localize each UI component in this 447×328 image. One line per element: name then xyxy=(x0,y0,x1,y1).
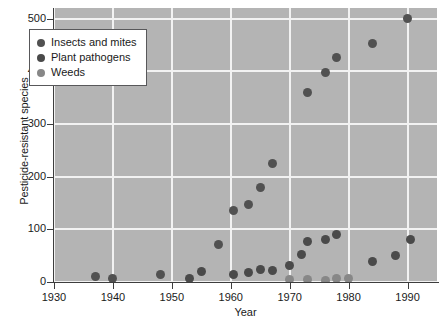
x-tick-mark-1960 xyxy=(231,283,232,289)
x-tick-mark-1990 xyxy=(408,283,409,289)
legend-label: Insects and mites xyxy=(51,36,137,49)
x-tick-label-1970: 1970 xyxy=(268,291,312,303)
x-tick-label-1940: 1940 xyxy=(91,291,135,303)
y-tick-mark-500 xyxy=(47,19,54,20)
legend-marker-icon xyxy=(37,39,45,47)
y-tick-label-200: 200 xyxy=(6,171,46,182)
x-tick-label-1950: 1950 xyxy=(150,291,194,303)
data-point xyxy=(256,183,265,192)
x-tick-mark-1980 xyxy=(349,283,350,289)
x-axis-title: Year xyxy=(54,306,437,318)
x-tick-label-1990: 1990 xyxy=(386,291,430,303)
x-tick-mark-1940 xyxy=(113,283,114,289)
y-tick-label-100: 100 xyxy=(6,223,46,234)
legend-item: Plant pathogens xyxy=(37,50,137,65)
gridline-x-1950 xyxy=(171,8,173,282)
x-tick-mark-1930 xyxy=(54,283,55,289)
data-point xyxy=(229,270,238,279)
data-point xyxy=(185,274,194,282)
data-point xyxy=(108,274,117,282)
x-tick-mark-1970 xyxy=(290,283,291,289)
y-tick-label-500: 500 xyxy=(6,13,46,24)
y-tick-mark-200 xyxy=(47,177,54,178)
x-tick-label-1960: 1960 xyxy=(209,291,253,303)
gridline-x-1970 xyxy=(289,8,291,282)
legend-item: Weeds xyxy=(37,65,137,80)
data-point xyxy=(197,267,206,276)
data-point xyxy=(403,14,412,23)
y-tick-mark-0 xyxy=(47,282,54,283)
x-tick-mark-1950 xyxy=(172,283,173,289)
chart-legend: Insects and mitesPlant pathogensWeeds xyxy=(29,29,147,86)
data-point xyxy=(391,251,400,260)
y-tick-mark-100 xyxy=(47,229,54,230)
data-point xyxy=(268,159,277,168)
legend-item: Insects and mites xyxy=(37,35,137,50)
x-tick-label-1980: 1980 xyxy=(327,291,371,303)
data-point xyxy=(406,235,415,244)
legend-label: Plant pathogens xyxy=(51,51,131,64)
data-point xyxy=(297,250,306,259)
data-point xyxy=(285,261,294,270)
data-point xyxy=(256,265,265,274)
gridline-x-1960 xyxy=(230,8,232,282)
data-point xyxy=(244,268,253,277)
y-tick-mark-300 xyxy=(47,124,54,125)
gridline-x-1980 xyxy=(348,8,350,282)
y-tick-label-300: 300 xyxy=(6,118,46,129)
data-point xyxy=(244,200,253,209)
data-point xyxy=(229,206,238,215)
data-point xyxy=(156,270,165,279)
data-point xyxy=(214,240,223,249)
y-tick-label-0: 0 xyxy=(6,276,46,287)
pesticide-resistance-scatter-chart: Pesticide-resistant species Year 0100200… xyxy=(0,0,447,328)
data-point xyxy=(321,235,330,244)
x-axis-line xyxy=(54,282,439,283)
legend-marker-icon xyxy=(37,69,45,77)
data-point xyxy=(368,39,377,48)
legend-label: Weeds xyxy=(51,66,85,79)
data-point xyxy=(368,257,377,266)
legend-marker-icon xyxy=(37,54,45,62)
data-point xyxy=(332,274,341,282)
x-tick-label-1930: 1930 xyxy=(32,291,76,303)
data-point xyxy=(268,266,277,275)
data-point xyxy=(303,237,312,246)
data-point xyxy=(303,88,312,97)
data-point xyxy=(285,275,294,282)
data-point xyxy=(332,230,341,239)
data-point xyxy=(332,53,341,62)
data-point xyxy=(91,272,100,281)
data-point xyxy=(321,68,330,77)
data-point xyxy=(344,274,353,282)
data-point xyxy=(303,275,312,282)
